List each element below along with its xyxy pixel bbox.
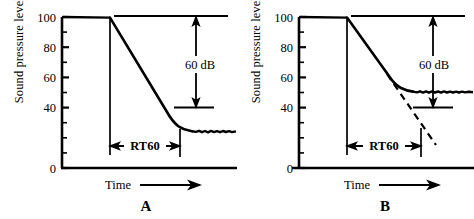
annotation-rt60-label: RT60 [130, 139, 159, 153]
y-axis-label-b: Sound pressure level, dB [249, 0, 264, 115]
panel-b: 100 80 60 40 0 60 dB [237, 0, 474, 219]
y-axis-label-a: Sound pressure level, dB [12, 0, 27, 115]
annotation-60db-label: 60 dB [419, 58, 449, 72]
steady-state-level-line [300, 17, 347, 18]
y-tick-label-40: 40 [281, 101, 294, 115]
y-tick-label-0: 0 [287, 162, 293, 176]
annotation-60db-label: 60 dB [185, 58, 215, 72]
y-tick-label-60: 60 [44, 71, 57, 85]
x-axis-direction-arrow [379, 179, 441, 190]
y-tick-label-100: 100 [37, 11, 56, 25]
noise-floor-trace [413, 91, 473, 92]
noise-floor-trace [192, 131, 236, 133]
x-axis-direction-arrow [140, 179, 202, 190]
y-tick-label-80: 80 [281, 41, 294, 55]
x-axis-label: Time [344, 178, 370, 192]
decay-curve [110, 18, 192, 132]
y-tick-label-100: 100 [274, 11, 293, 25]
figure-rt60-decay-curves: 100 80 60 40 0 60 dB [0, 0, 474, 219]
annotation-rt60-label: RT60 [369, 139, 398, 153]
panel-letter-b: B [380, 198, 390, 214]
panel-letter-a: A [141, 198, 152, 214]
panel-a: 100 80 60 40 0 60 dB [0, 0, 237, 219]
x-axis-label: Time [105, 178, 131, 192]
decay-curve [347, 18, 413, 92]
y-tick-label-80: 80 [44, 41, 57, 55]
y-tick-label-0: 0 [50, 162, 56, 176]
panel-a-plot: 100 80 60 40 0 60 dB [0, 0, 237, 219]
extrapolated-decay-dashed-line [387, 74, 436, 145]
y-tick-label-60: 60 [281, 71, 294, 85]
steady-state-level-line [63, 17, 110, 18]
panel-b-plot: 100 80 60 40 0 60 dB [237, 0, 474, 219]
y-tick-label-40: 40 [44, 101, 57, 115]
